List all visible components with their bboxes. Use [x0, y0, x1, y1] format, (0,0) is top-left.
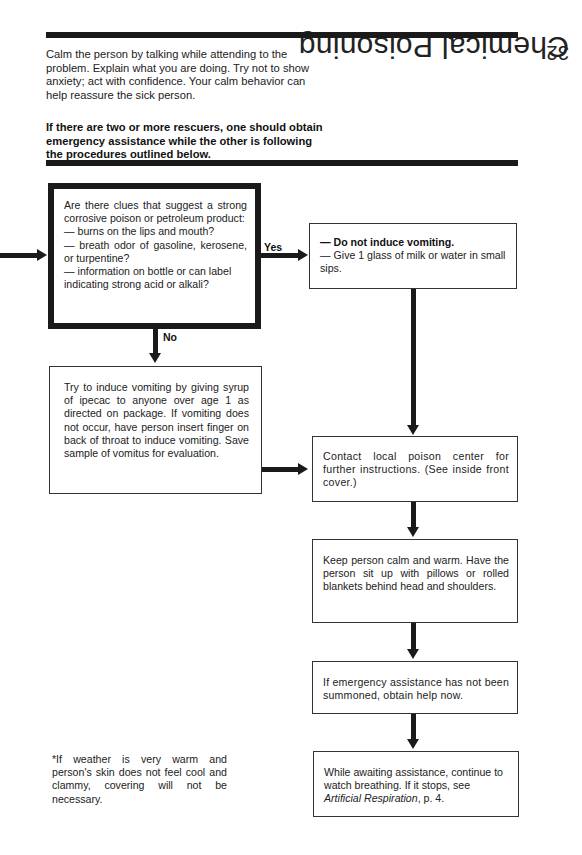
no-arrow-head — [149, 353, 161, 363]
no-arrow-line — [153, 329, 158, 354]
decision-clue-1: — burns on the lips and mouth? — [64, 225, 247, 238]
top-rule — [46, 32, 518, 38]
decision-question: Are there clues that suggest a strong co… — [64, 199, 247, 225]
section-title: 32Chemical Poisoning — [531, 26, 571, 326]
entry-arrow-head — [37, 249, 47, 261]
decision-clue-2: — breath odor of gasoline, kerosene, or … — [64, 239, 247, 265]
footnote: *If weather is very warm and person's sk… — [52, 753, 227, 806]
give-milk-text: — Give 1 glass of milk or water in small… — [320, 249, 508, 275]
yes-arrow-head — [298, 249, 308, 261]
no-label: No — [163, 331, 177, 343]
awaiting-text: While awaiting assistance, continue to w… — [324, 766, 503, 791]
artificial-respiration-ref[interactable]: Artificial Respiration — [324, 792, 418, 804]
emergency-to-awaiting-head — [407, 739, 419, 749]
emergency-to-awaiting-line — [411, 714, 416, 740]
page-ref: , p. 4. — [418, 792, 445, 804]
no-box: Try to induce vomiting by giving syrup o… — [49, 366, 262, 494]
do-not-induce-text: — Do not induce vomiting. — [320, 236, 508, 249]
no-to-contact-head — [298, 463, 308, 475]
yes-label: Yes — [264, 241, 282, 253]
contact-poison-center-box: Contact local poison center for further … — [312, 436, 518, 502]
rescuers-note: If there are two or more rescuers, one s… — [46, 121, 331, 162]
decision-box: Are there clues that suggest a strong co… — [48, 183, 261, 329]
obtain-help-box: If emergency assistance has not been sum… — [312, 661, 518, 714]
entry-arrow-line — [0, 253, 38, 258]
calm-to-emergency-head — [407, 649, 419, 659]
contact-to-calm-line — [411, 502, 416, 528]
bottom-rule — [46, 160, 518, 166]
yes-spine-line — [411, 289, 416, 425]
decision-clue-3: — information on bottle or can label ind… — [64, 265, 247, 291]
intro-paragraph: Calm the person by talking while attendi… — [46, 48, 326, 102]
no-to-contact-line — [262, 467, 298, 472]
yes-box: — Do not induce vomiting. — Give 1 glass… — [309, 223, 517, 289]
awaiting-assistance-box: While awaiting assistance, continue to w… — [313, 751, 519, 817]
yes-arrow-line — [261, 253, 299, 258]
contact-to-calm-head — [407, 527, 419, 537]
keep-calm-box: Keep person calm and warm. Have the pers… — [312, 539, 518, 623]
calm-to-emergency-line — [411, 623, 416, 650]
yes-spine-arrow-head — [407, 425, 419, 435]
